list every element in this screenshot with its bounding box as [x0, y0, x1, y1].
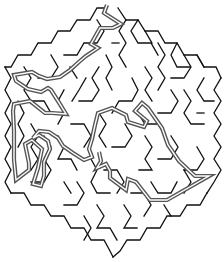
inner-wall [151, 182, 177, 193]
outer-wall-upper-right [118, 8, 221, 78]
inner-wall [18, 101, 24, 147]
inner-wall [97, 205, 117, 240]
outer-wall-lower-left [11, 193, 113, 257]
inner-wall [119, 20, 126, 67]
inner-wall [124, 205, 137, 228]
inner-wall [158, 90, 178, 113]
inner-wall [158, 43, 165, 90]
inner-wall [197, 55, 204, 67]
inner-wall [106, 55, 112, 90]
inner-wall [139, 136, 152, 170]
inner-wall [64, 182, 71, 193]
inner-wall [145, 67, 152, 101]
inner-wall [145, 31, 152, 43]
outer-wall-lower-right [113, 193, 207, 257]
outer-wall-upper-left [5, 8, 104, 67]
inner-wall [112, 124, 132, 147]
inner-wall [72, 78, 86, 101]
inner-wall [197, 78, 214, 101]
inner-wall [131, 20, 158, 55]
inner-wall [99, 113, 106, 147]
maze-board [0, 0, 224, 262]
solution-path-stroke [13, 5, 209, 200]
inner-wall [71, 124, 91, 147]
inner-wall [84, 216, 91, 240]
solution-path [13, 5, 209, 200]
outer-wall-left [5, 67, 11, 193]
inner-wall [64, 182, 84, 205]
inner-wall [164, 205, 171, 216]
